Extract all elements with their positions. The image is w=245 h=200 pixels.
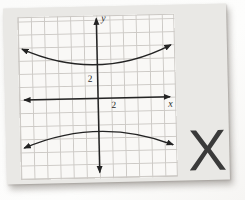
y-axis [96, 18, 99, 172]
answer-card: y x 2 2 X [3, 3, 230, 184]
y-tick-label: 2 [88, 74, 93, 84]
x-axis [24, 97, 170, 100]
incorrect-x-mark: X [184, 120, 231, 181]
x-tick-label: 2 [111, 100, 116, 110]
page-background: y x 2 2 X [0, 0, 245, 200]
y-axis-label: y [100, 12, 106, 23]
x-axis-label: x [167, 98, 173, 109]
